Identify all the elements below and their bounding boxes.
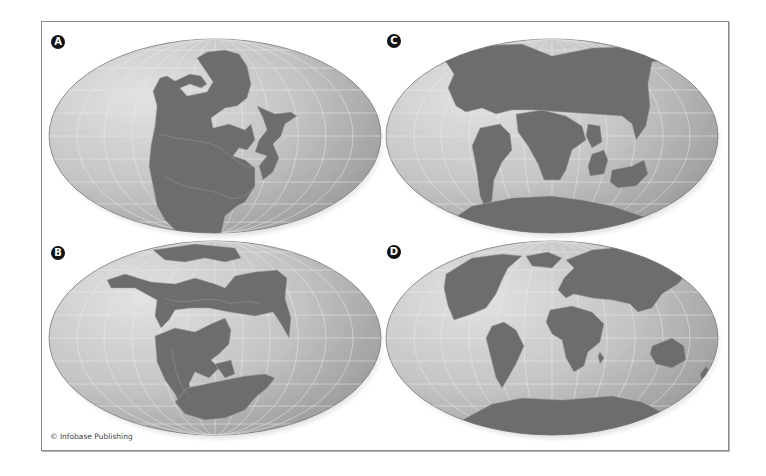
globe-c-map [381, 34, 723, 240]
credit-text: © Infobase Publishing [50, 432, 133, 441]
globe-d-map [381, 236, 723, 442]
globe-b-map [44, 236, 386, 442]
globe-a-map [44, 34, 386, 240]
